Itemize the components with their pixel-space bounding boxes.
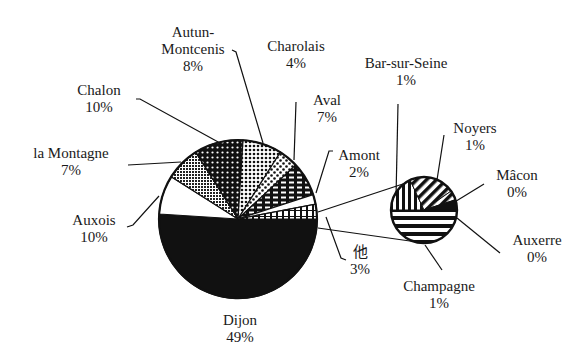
- label-charolais-pct: 4%: [254, 55, 338, 72]
- label-autun-name1: Autun-: [150, 24, 236, 41]
- leader-auxerre: [457, 218, 500, 253]
- label-charolais-name: Charolais: [254, 38, 338, 55]
- label-macon: Mâcon 0%: [484, 167, 550, 201]
- label-barsurseine-pct: 1%: [350, 72, 462, 89]
- label-chalon: Chalon 10%: [64, 82, 134, 116]
- label-champagne-name: Champagne: [386, 278, 492, 295]
- label-autun: Autun- Montcenis 8%: [150, 24, 236, 75]
- label-amont-name: Amont: [330, 147, 388, 164]
- label-amont-pct: 2%: [330, 164, 388, 181]
- label-chalon-pct: 10%: [64, 99, 134, 116]
- label-autun-pct: 8%: [150, 58, 236, 75]
- label-barsurseine: Bar-sur-Seine 1%: [350, 55, 462, 89]
- main-pie: [159, 140, 317, 299]
- slice-dijon: [159, 214, 317, 299]
- label-auxerre: Auxerre 0%: [500, 232, 574, 266]
- label-noyers-pct: 1%: [440, 137, 510, 154]
- label-champagne-pct: 1%: [386, 295, 492, 312]
- leader-macon: [453, 184, 484, 203]
- label-la-montagne: la Montagne 7%: [14, 145, 128, 179]
- leader-charolais: [294, 102, 296, 160]
- leader-auxois: [127, 196, 159, 227]
- label-dijon-pct: 49%: [212, 329, 268, 346]
- label-auxois-pct: 10%: [60, 229, 128, 246]
- label-noyers: Noyers 1%: [440, 120, 510, 154]
- label-other-name: 他: [342, 244, 378, 261]
- leader-chalon: [136, 99, 220, 143]
- label-champagne: Champagne 1%: [386, 278, 492, 312]
- label-charolais: Charolais 4%: [254, 38, 338, 72]
- label-auxois: Auxois 10%: [60, 212, 128, 246]
- label-noyers-name: Noyers: [440, 120, 510, 137]
- label-macon-name: Mâcon: [484, 167, 550, 184]
- label-aval-pct: 7%: [304, 109, 350, 126]
- leader-barsurseine: [396, 104, 398, 197]
- label-other: 他 3%: [342, 244, 378, 278]
- label-auxerre-pct: 0%: [500, 249, 574, 266]
- label-montagne-name: la Montagne: [14, 145, 128, 162]
- label-other-pct: 3%: [342, 261, 378, 278]
- label-macon-pct: 0%: [484, 184, 550, 201]
- label-dijon-name: Dijon: [212, 312, 268, 329]
- leader-champagne: [425, 245, 442, 270]
- label-autun-name2: Montcenis: [150, 41, 236, 58]
- label-auxois-name: Auxois: [60, 212, 128, 229]
- label-chalon-name: Chalon: [64, 82, 134, 99]
- label-auxerre-name: Auxerre: [500, 232, 574, 249]
- leader-montagne: [128, 162, 181, 165]
- slice-champagne: [391, 210, 457, 243]
- chart-title-cropped: [110, 0, 470, 5]
- secondary-pie: [391, 177, 457, 243]
- label-barsurseine-name: Bar-sur-Seine: [350, 55, 462, 72]
- label-montagne-pct: 7%: [14, 162, 128, 179]
- label-dijon: Dijon 49%: [212, 312, 268, 346]
- label-amont: Amont 2%: [330, 147, 388, 181]
- label-aval-name: Aval: [304, 92, 350, 109]
- label-aval: Aval 7%: [304, 92, 350, 126]
